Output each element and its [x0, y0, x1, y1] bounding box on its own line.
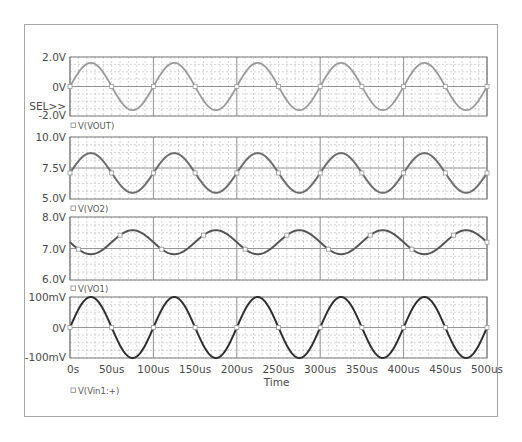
- trace-marker: [235, 171, 239, 175]
- trace-marker: [485, 85, 489, 89]
- y-tick-label: 0V: [52, 81, 67, 93]
- legend-label[interactable]: V(VOUT): [78, 121, 114, 131]
- trace-marker: [151, 326, 155, 330]
- trace-marker: [277, 85, 281, 89]
- plot-panel-2[interactable]: 10.0V7.5V5.0VV(VO2): [35, 131, 489, 214]
- trace-marker: [318, 85, 322, 89]
- trace-marker: [110, 171, 114, 175]
- y-tick-label: 5.0V: [42, 192, 67, 204]
- x-tick-label: 100us: [137, 363, 169, 375]
- legend-label[interactable]: V(VO2): [78, 204, 108, 214]
- trace-marker: [485, 240, 489, 244]
- x-tick-label: 200us: [221, 363, 253, 375]
- trace-marker: [68, 326, 72, 330]
- trace-marker: [443, 326, 447, 330]
- legend-label[interactable]: V(VO1): [78, 284, 108, 294]
- y-tick-label: 8.0V: [42, 211, 67, 223]
- trace-marker: [235, 326, 239, 330]
- legend-marker-icon: [71, 286, 76, 291]
- trace-marker: [327, 247, 331, 251]
- trace-marker: [193, 85, 197, 89]
- x-tick-label: 350us: [346, 363, 378, 375]
- x-tick-label: 500us: [471, 363, 503, 375]
- trace-marker: [193, 171, 197, 175]
- trace-marker: [360, 85, 364, 89]
- legend-marker-icon: [71, 206, 76, 211]
- y-tick-label: 0V: [52, 322, 67, 334]
- y-tick-label: 10.0V: [35, 131, 66, 143]
- trace-marker: [402, 171, 406, 175]
- trace-marker: [368, 233, 372, 237]
- plot-panel-1[interactable]: 2.0V0V-2.0VSEL>>V(VOUT): [29, 51, 489, 131]
- trace-marker: [485, 326, 489, 330]
- y-tick-label: 100mV: [29, 291, 67, 303]
- trace-marker: [76, 247, 80, 251]
- x-tick-label: 450us: [429, 363, 461, 375]
- trace-marker: [402, 326, 406, 330]
- y-tick-label: -100mV: [25, 351, 67, 363]
- trace-marker: [318, 326, 322, 330]
- transient-plot[interactable]: 2.0V0V-2.0VSEL>>V(VOUT)10.0V7.5V5.0VV(VO…: [0, 0, 522, 442]
- trace-marker: [485, 171, 489, 175]
- plot-panel-3[interactable]: 8.0V7.0V6.0VV(VO1): [42, 211, 489, 294]
- trace-marker: [277, 326, 281, 330]
- trace-marker: [235, 85, 239, 89]
- x-tick-label: 250us: [262, 363, 294, 375]
- legend-label[interactable]: V(Vin1:+): [78, 386, 119, 396]
- selected-plot-marker[interactable]: SEL>>: [29, 100, 66, 112]
- trace-marker: [110, 326, 114, 330]
- trace-marker: [160, 247, 164, 251]
- y-tick-label: 2.0V: [42, 51, 67, 63]
- x-axis-title: Time: [263, 376, 290, 388]
- trace-marker: [193, 326, 197, 330]
- trace-marker: [452, 233, 456, 237]
- trace-marker: [360, 326, 364, 330]
- legend-marker-icon: [71, 388, 76, 393]
- trace-marker: [68, 171, 72, 175]
- trace-marker: [402, 85, 406, 89]
- x-tick-label: 0s: [67, 363, 79, 375]
- trace-marker: [151, 85, 155, 89]
- trace-marker: [285, 233, 289, 237]
- y-tick-label: 7.5V: [42, 162, 67, 174]
- trace-marker: [318, 171, 322, 175]
- trace-marker: [110, 85, 114, 89]
- x-tick-label: 150us: [179, 363, 211, 375]
- x-tick-label: 300us: [304, 363, 336, 375]
- trace-marker: [443, 171, 447, 175]
- x-tick-label: 50us: [99, 363, 125, 375]
- x-axis: 0s50us100us150us200us250us300us350us400u…: [67, 363, 503, 388]
- trace-marker: [443, 85, 447, 89]
- trace-marker: [360, 171, 364, 175]
- trace-marker: [151, 171, 155, 175]
- y-tick-label: 7.0V: [42, 243, 67, 255]
- trace-marker: [68, 85, 72, 89]
- trace-marker: [410, 247, 414, 251]
- legend-marker-icon: [71, 123, 76, 128]
- trace-marker: [277, 171, 281, 175]
- trace-marker: [201, 233, 205, 237]
- y-tick-label: 6.0V: [42, 273, 67, 285]
- trace-marker: [243, 247, 247, 251]
- plot-panel-4[interactable]: 100mV0V-100mVV(Vin1:+): [25, 291, 489, 396]
- x-tick-label: 400us: [388, 363, 420, 375]
- trace-marker: [118, 233, 122, 237]
